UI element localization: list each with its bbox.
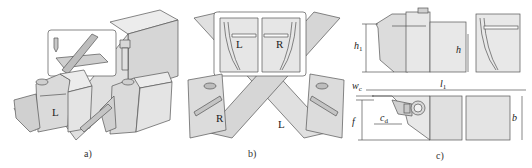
dim-h1-sub: 1 xyxy=(359,45,363,53)
dim-l1-sub: 1 xyxy=(443,83,447,91)
caption-a: a) xyxy=(84,148,92,159)
panel-a-isometric-holders: L a) xyxy=(0,0,180,168)
dim-h1: h1 xyxy=(354,40,363,53)
holder-label-left: L xyxy=(278,118,285,130)
panel-c-dimensioned-drawing: h1 h l1 wc f cd b c) xyxy=(352,0,532,168)
panel-b-drawing xyxy=(180,0,352,168)
dim-cd-sub: d xyxy=(384,117,388,125)
inset-label-right: R xyxy=(276,38,283,50)
dim-l1: l1 xyxy=(440,78,446,91)
dim-f: f xyxy=(352,116,355,127)
dim-cd: cd xyxy=(380,112,388,125)
inset-label-left: L xyxy=(236,38,243,50)
caption-b: b) xyxy=(248,148,256,159)
dim-wc-symbol: w xyxy=(352,80,359,91)
dim-h: h xyxy=(456,44,461,55)
panel-b-left-right-holders: L R R L b) xyxy=(180,0,352,168)
holder-label-right: R xyxy=(216,112,223,124)
caption-c: c) xyxy=(436,150,444,161)
dim-b: b xyxy=(512,112,517,123)
hand-label-left: L xyxy=(52,106,59,118)
panel-a-drawing xyxy=(0,0,180,168)
dim-wc-sub: c xyxy=(359,85,362,93)
dim-wc: wc xyxy=(352,80,362,93)
